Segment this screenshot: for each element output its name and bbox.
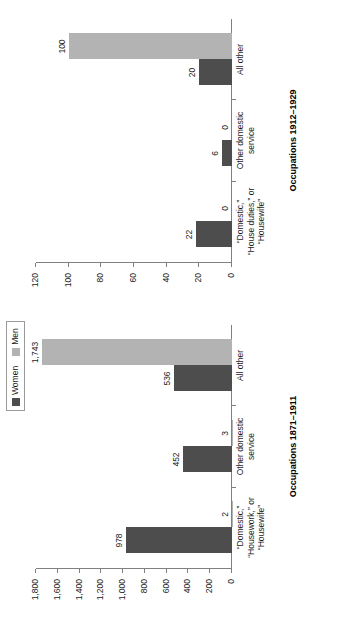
bar-slot-men: 1,743 [36, 340, 232, 366]
axis-tick: 40 [166, 263, 167, 267]
bar-women[interactable] [199, 60, 232, 86]
bar-group: 60 [36, 100, 232, 181]
bar-women[interactable] [183, 447, 232, 473]
axis-tick-label: 60 [129, 273, 138, 282]
axis-tick: 400 [187, 569, 188, 573]
axis-tick: 1,400 [79, 569, 80, 573]
axis-tick-label: 1,400 [74, 579, 83, 600]
axis-tick-label: 120 [31, 273, 40, 287]
bar-value-label: 0 [221, 125, 230, 130]
category-labels-1912-1929: “Domestic,” “House duties,” or “Housewif… [235, 19, 267, 262]
axis-tick-label: 200 [205, 579, 214, 593]
bar-value-label: 536 [163, 371, 172, 385]
category-label: Other domestic service [235, 100, 267, 181]
bar-women[interactable] [196, 222, 232, 248]
category-labels-1871-1911: “Domestic,” “Housework,” or “Housewife”O… [235, 325, 267, 568]
bar-value-label: 22 [185, 230, 194, 239]
axis-tick-label: 100 [63, 273, 72, 287]
bar-slot-women: 22 [36, 222, 232, 248]
axis-tick-label: 600 [161, 579, 170, 593]
legend-swatch-women-icon [12, 398, 20, 406]
axis-tick: 120 [35, 263, 36, 267]
bar-slot-men: 3 [36, 421, 232, 447]
chart-legend: Women Men [6, 321, 25, 411]
bar-value-label: 3 [221, 431, 230, 436]
category-label: “Domestic,” “House duties,” or “Housewif… [235, 181, 267, 262]
bar-value-label: 452 [172, 452, 181, 466]
axis-tick-label: 800 [139, 579, 148, 593]
axis-tick: 100 [68, 263, 69, 267]
bar-slot-women: 536 [36, 366, 232, 392]
value-axis-1871-1911 [36, 568, 232, 569]
plot-area-1871-1911: 02004006008001,0001,2001,4001,6001,800 9… [36, 325, 232, 569]
chart-panel-1871-1911: 02004006008001,0001,2001,4001,6001,800 9… [30, 321, 330, 609]
bar-value-label: 20 [188, 68, 197, 77]
bar-value-label: 2 [221, 512, 230, 517]
axis-tick: 0 [231, 569, 232, 573]
bar-value-label: 0 [221, 206, 230, 211]
bar-slot-men: 0 [36, 196, 232, 222]
panel-title-1912-1929: Occupations 1912–1929 [288, 19, 298, 262]
axis-tick: 1,600 [57, 569, 58, 573]
legend-entry-men: Men [11, 328, 20, 356]
chart-panel-1912-1929: 020406080100120 2206020100 “Domestic,” “… [30, 15, 330, 303]
category-label: All other [235, 325, 267, 406]
axis-tick-label: 0 [227, 579, 236, 584]
bar-group: 9782 [36, 487, 232, 568]
bar-slot-men: 0 [36, 115, 232, 141]
axis-tick-label: 400 [183, 579, 192, 593]
bar-value-label: 1,743 [31, 342, 40, 363]
axis-tick: 1,200 [100, 569, 101, 573]
axis-tick-label: 0 [227, 273, 236, 278]
legend-label-men: Men [11, 328, 20, 345]
bar-value-label: 978 [115, 533, 124, 547]
bar-men[interactable] [69, 34, 232, 60]
bar-group: 5361,743 [36, 325, 232, 406]
bar-value-label: 6 [211, 151, 220, 156]
bar-men[interactable] [42, 340, 232, 366]
axis-tick: 20 [198, 263, 199, 267]
plot-area-1912-1929: 020406080100120 2206020100 [36, 19, 232, 263]
bar-slot-men: 2 [36, 502, 232, 528]
axis-tick-label: 40 [161, 273, 170, 282]
axis-tick: 1,800 [35, 569, 36, 573]
axis-tick-label: 1,200 [96, 579, 105, 600]
axis-tick-label: 20 [194, 273, 203, 282]
bar-groups-1912-1929: 2206020100 [36, 19, 232, 262]
bar-group: 220 [36, 181, 232, 262]
bar-groups-1871-1911: 978245235361,743 [36, 325, 232, 568]
legend-label-women: Women [11, 366, 20, 395]
axis-tick: 200 [209, 569, 210, 573]
axis-tick: 800 [144, 569, 145, 573]
bar-slot-men: 100 [36, 34, 232, 60]
legend-swatch-men-icon [12, 348, 20, 356]
bar-slot-women: 452 [36, 447, 232, 473]
bar-women[interactable] [222, 141, 232, 167]
bar-group: 4523 [36, 406, 232, 487]
bar-women[interactable] [174, 366, 232, 392]
bar-slot-women: 978 [36, 528, 232, 554]
bar-slot-women: 20 [36, 60, 232, 86]
axis-tick-label: 1,000 [118, 579, 127, 600]
axis-tick: 1,000 [122, 569, 123, 573]
axis-tick-label: 1,600 [52, 579, 61, 600]
axis-tick-label: 80 [96, 273, 105, 282]
axis-tick: 0 [231, 263, 232, 267]
axis-tick: 80 [100, 263, 101, 267]
axis-tick: 600 [166, 569, 167, 573]
category-label: All other [235, 19, 267, 100]
panel-title-1871-1911: Occupations 1871–1911 [288, 325, 298, 568]
category-label: Other domestic service [235, 406, 267, 487]
bar-group: 20100 [36, 19, 232, 100]
bar-women[interactable] [126, 528, 232, 554]
figure: Women Men 02004006008001,0001,2001,4001,… [0, 0, 350, 643]
legend-entry-women: Women [11, 366, 20, 406]
rotated-figure-canvas: Women Men 02004006008001,0001,2001,4001,… [0, 0, 350, 643]
bar-slot-women: 6 [36, 141, 232, 167]
value-axis-1912-1929 [36, 262, 232, 263]
axis-tick-label: 1,800 [31, 579, 40, 600]
axis-tick: 60 [133, 263, 134, 267]
category-label: “Domestic,” “Housework,” or “Housewife” [235, 487, 267, 568]
bar-value-label: 100 [58, 39, 67, 53]
